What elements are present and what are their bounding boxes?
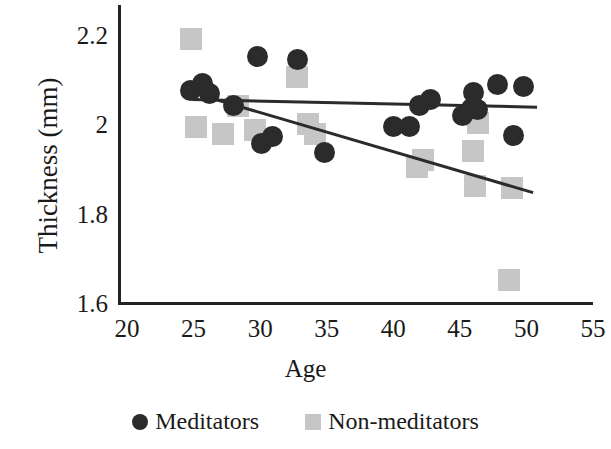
data-point-non-meditator: [412, 149, 434, 171]
data-point-meditator: [503, 125, 524, 146]
x-tick-label: 35: [314, 316, 339, 341]
y-axis-line: [118, 5, 121, 304]
x-tick-label: 40: [381, 316, 406, 341]
x-tick-label: 45: [447, 316, 472, 341]
x-tick-label: 55: [581, 316, 606, 341]
legend-item-meditators: Meditators: [132, 408, 259, 435]
data-point-meditator: [399, 116, 420, 137]
data-point-non-meditator: [501, 177, 523, 199]
data-point-meditator: [467, 99, 488, 120]
scatter-chart-figure: Thickness (mm) Age 1.61.822.2 2025303540…: [0, 0, 611, 449]
data-point-meditator: [247, 46, 268, 67]
y-tick-label: 2.2: [40, 23, 108, 48]
data-point-meditator: [487, 74, 508, 95]
x-axis-line: [118, 302, 593, 305]
data-point-non-meditator: [180, 28, 202, 50]
plot-area: 1.61.822.2 2025303540455055: [0, 0, 611, 449]
data-point-meditator: [223, 95, 244, 116]
y-tick-label: 1.8: [40, 201, 108, 226]
x-tick-label: 25: [181, 316, 206, 341]
legend-circle-marker-icon: [132, 414, 148, 430]
data-point-non-meditator: [185, 116, 207, 138]
y-tick-label: 2: [40, 112, 108, 137]
x-tick-label: 30: [248, 316, 273, 341]
data-point-meditator: [420, 89, 441, 110]
legend-item-non-meditators: Non-meditators: [305, 408, 479, 435]
data-point-non-meditator: [212, 123, 234, 145]
legend-label-non-meditators: Non-meditators: [328, 408, 479, 435]
legend-label-meditators: Meditators: [155, 408, 259, 435]
data-point-meditator: [314, 142, 335, 163]
y-tick-label: 1.6: [40, 291, 108, 316]
data-point-non-meditator: [464, 175, 486, 197]
x-tick-label: 20: [115, 316, 140, 341]
chart-legend: Meditators Non-meditators: [0, 408, 611, 435]
x-tick-label: 50: [514, 316, 539, 341]
data-point-non-meditator: [498, 269, 520, 291]
data-point-meditator: [199, 83, 220, 104]
data-point-meditator: [287, 49, 308, 70]
legend-square-marker-icon: [305, 414, 321, 430]
data-point-meditator: [262, 126, 283, 147]
data-point-meditator: [513, 76, 534, 97]
data-point-non-meditator: [462, 140, 484, 162]
